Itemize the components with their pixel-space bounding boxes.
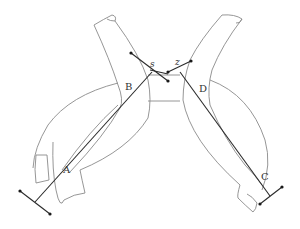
label-b: B [125, 81, 132, 92]
diagram-canvas: A B C D s z [0, 0, 300, 229]
left-tube [33, 15, 150, 203]
label-a: A [62, 164, 71, 175]
label-z: z [174, 57, 180, 67]
label-d: D [199, 83, 207, 94]
center-bridge [148, 75, 180, 101]
crossing-lines [129, 51, 192, 82]
label-s: s [150, 59, 155, 69]
label-c: C [261, 171, 269, 182]
right-tube [183, 15, 268, 212]
